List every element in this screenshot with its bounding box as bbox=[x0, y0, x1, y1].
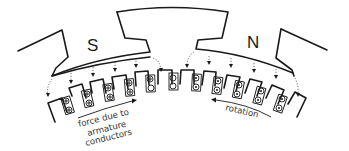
north-pole-label: N bbox=[247, 33, 259, 52]
rotation-label: rotation bbox=[225, 102, 260, 119]
south-pole-label: S bbox=[87, 36, 98, 55]
left-pole-piece bbox=[18, 30, 150, 76]
dc-machine-diagram: S N bbox=[0, 0, 349, 151]
conductor-empty-icons bbox=[170, 75, 176, 89]
